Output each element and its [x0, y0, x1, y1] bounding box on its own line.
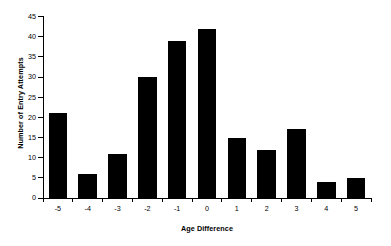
bar: [198, 29, 216, 198]
y-tick-label: 0: [12, 194, 36, 201]
x-tick-mark: [43, 198, 44, 202]
y-tick-mark: [38, 137, 43, 138]
y-tick-mark: [38, 16, 43, 17]
bar: [49, 113, 67, 198]
bar: [168, 41, 186, 198]
x-axis-title: Age Difference: [43, 224, 371, 233]
bar-chart: Number of Entry Attempts 051015202530354…: [0, 0, 391, 246]
x-tick-mark: [102, 198, 103, 202]
x-tick-label: -2: [132, 205, 162, 213]
bar: [347, 178, 365, 198]
y-tick-label: 30: [12, 73, 36, 80]
y-tick-mark: [38, 56, 43, 57]
x-tick-mark: [72, 198, 73, 202]
y-tick-label: 25: [12, 94, 36, 101]
y-tick-mark: [38, 77, 43, 78]
y-tick-mark: [38, 117, 43, 118]
y-tick-label: 35: [12, 53, 36, 60]
x-tick-label: -3: [103, 205, 133, 213]
bar: [138, 77, 156, 198]
bar: [317, 182, 335, 198]
x-tick-label: 2: [252, 205, 282, 213]
y-tick-mark: [38, 177, 43, 178]
y-tick-label: 10: [12, 154, 36, 161]
x-tick-label: -5: [43, 205, 73, 213]
x-tick-label: -4: [73, 205, 103, 213]
x-tick-mark: [371, 198, 372, 202]
x-tick-mark: [251, 198, 252, 202]
y-tick-label: 20: [12, 114, 36, 121]
y-tick-mark: [38, 157, 43, 158]
x-tick-mark: [162, 198, 163, 202]
x-tick-mark: [281, 198, 282, 202]
y-tick-label: 15: [12, 134, 36, 141]
x-tick-mark: [311, 198, 312, 202]
y-tick-label: 45: [12, 13, 36, 20]
x-tick-label: -1: [162, 205, 192, 213]
x-tick-mark: [221, 198, 222, 202]
y-tick-mark: [38, 97, 43, 98]
y-tick-mark: [38, 36, 43, 37]
x-tick-label: 5: [341, 205, 371, 213]
x-tick-mark: [192, 198, 193, 202]
x-tick-mark: [341, 198, 342, 202]
x-tick-label: 1: [222, 205, 252, 213]
bar: [257, 150, 275, 198]
bar: [228, 138, 246, 199]
x-tick-mark: [132, 198, 133, 202]
x-tick-label: 4: [311, 205, 341, 213]
bar: [287, 129, 305, 198]
y-tick-label: 40: [12, 33, 36, 40]
bar: [78, 174, 96, 198]
y-axis-line: [43, 16, 44, 198]
x-tick-label: 3: [281, 205, 311, 213]
bar: [108, 154, 126, 198]
y-tick-label: 5: [12, 174, 36, 181]
x-tick-label: 0: [192, 205, 222, 213]
